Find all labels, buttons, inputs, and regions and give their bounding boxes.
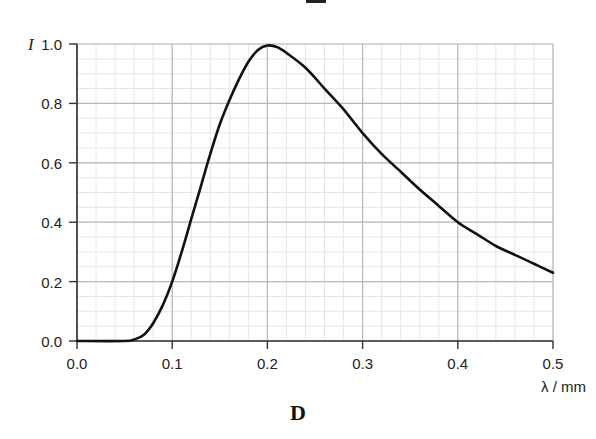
y-axis-ticks: 0.00.20.40.60.81.0: [41, 36, 77, 350]
y-tick-label: 0.6: [41, 155, 62, 172]
x-tick-label: 0.1: [162, 355, 183, 372]
minor-grid: [77, 44, 553, 341]
y-tick-label: 0.2: [41, 274, 62, 291]
x-tick-label: 0.0: [67, 355, 88, 372]
x-tick-label: 0.3: [352, 355, 373, 372]
y-tick-label: 1.0: [41, 36, 62, 53]
figure-caption: D: [0, 400, 596, 426]
x-tick-label: 0.2: [257, 355, 278, 372]
y-tick-label: 0.8: [41, 95, 62, 112]
y-axis-label: I: [27, 35, 35, 54]
x-axis-label: λ / mm: [541, 378, 586, 395]
intensity-wavelength-chart: 0.00.10.20.30.40.5 0.00.20.40.60.81.0 I …: [0, 0, 596, 400]
x-tick-label: 0.5: [543, 355, 564, 372]
y-tick-label: 0.4: [41, 214, 62, 231]
y-tick-label: 0.0: [41, 333, 62, 350]
x-tick-label: 0.4: [447, 355, 468, 372]
x-axis-ticks: 0.00.10.20.30.40.5: [67, 341, 564, 372]
